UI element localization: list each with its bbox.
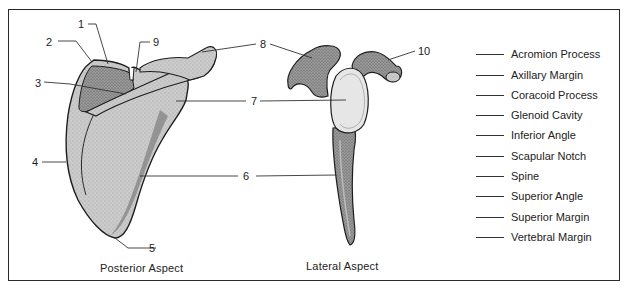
- lateral-blade: [333, 126, 356, 245]
- callout-5: 5: [149, 243, 155, 254]
- callout-1: 1: [78, 19, 84, 30]
- callout-3: 3: [35, 78, 41, 89]
- answer-key-item: Superior Margin: [476, 203, 600, 223]
- answer-blank[interactable]: [476, 156, 504, 157]
- answer-key-list: Acromion Process Axillary Margin Coracoi…: [476, 41, 600, 244]
- answer-blank[interactable]: [476, 196, 504, 197]
- answer-key-item: Inferior Angle: [476, 122, 600, 142]
- term-label: Scapular Notch: [511, 149, 586, 163]
- callout-2: 2: [46, 37, 52, 48]
- glenoid-cavity: [331, 68, 369, 133]
- callout-6: 6: [243, 171, 249, 182]
- answer-blank[interactable]: [476, 217, 504, 218]
- answer-key-item: Coracoid Process: [476, 82, 600, 102]
- answer-key-item: Spine: [476, 163, 600, 183]
- term-label: Glenoid Cavity: [511, 108, 583, 122]
- posterior-scapula: [66, 47, 216, 238]
- callout-4: 4: [32, 157, 38, 168]
- answer-key-item: Glenoid Cavity: [476, 102, 600, 122]
- caption-posterior-aspect: Posterior Aspect: [100, 262, 183, 274]
- callout-7: 7: [251, 96, 257, 107]
- answer-blank[interactable]: [476, 135, 504, 136]
- answer-key-item: Acromion Process: [476, 41, 600, 61]
- term-label: Axillary Margin: [511, 68, 583, 82]
- answer-blank[interactable]: [476, 115, 504, 116]
- answer-blank[interactable]: [476, 54, 504, 55]
- lateral-scapula: [288, 46, 402, 245]
- term-label: Coracoid Process: [511, 88, 598, 102]
- term-label: Superior Angle: [511, 189, 583, 203]
- answer-blank[interactable]: [476, 95, 504, 96]
- callout-10: 10: [418, 46, 430, 57]
- term-label: Spine: [511, 169, 539, 183]
- term-label: Vertebral Margin: [511, 230, 592, 244]
- callout-8: 8: [260, 39, 266, 50]
- answer-blank[interactable]: [476, 176, 504, 177]
- term-label: Superior Margin: [511, 210, 589, 224]
- answer-key-item: Superior Angle: [476, 183, 600, 203]
- answer-key-item: Axillary Margin: [476, 61, 600, 81]
- caption-lateral-aspect: Lateral Aspect: [306, 260, 379, 272]
- answer-blank[interactable]: [476, 237, 504, 238]
- callout-9: 9: [153, 37, 159, 48]
- answer-key-item: Scapular Notch: [476, 142, 600, 162]
- term-label: Inferior Angle: [511, 128, 576, 142]
- term-label: Acromion Process: [511, 47, 600, 61]
- answer-key-item: Vertebral Margin: [476, 224, 600, 244]
- answer-blank[interactable]: [476, 75, 504, 76]
